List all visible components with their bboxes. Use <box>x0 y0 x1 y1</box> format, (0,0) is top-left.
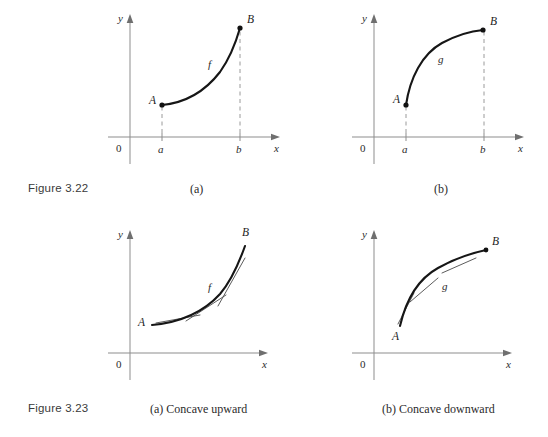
panel-3-22-b: y x 0 a b A B g <box>352 6 527 171</box>
curve-label-g: g <box>442 280 448 292</box>
tick-label-a: a <box>402 143 408 155</box>
point-a-label: A <box>148 94 157 106</box>
panel-3-23-b: y x 0 A B g <box>352 222 527 387</box>
tick-label-b: b <box>236 143 242 155</box>
x-axis-label: x <box>517 142 523 154</box>
point-b-marker <box>237 25 242 30</box>
point-a-label: A <box>392 93 401 105</box>
point-a-label: A <box>391 330 400 342</box>
tick-label-a: a <box>158 143 164 155</box>
curve-label-f: f <box>208 58 213 70</box>
y-axis-label: y <box>117 228 123 240</box>
x-axis-label: x <box>273 142 279 154</box>
x-axis-label: x <box>505 358 511 370</box>
point-b-label: B <box>492 235 499 247</box>
curve-label-f: f <box>208 281 213 293</box>
point-b-marker <box>480 27 485 32</box>
point-a-marker <box>403 102 408 107</box>
y-axis-arrowhead <box>127 14 134 23</box>
point-a-label: A <box>137 316 146 328</box>
x-axis-arrowhead <box>515 134 524 141</box>
point-b-marker <box>484 248 489 253</box>
y-axis-label: y <box>361 12 367 24</box>
panel-3-23-a: y x 0 A B f <box>108 222 283 387</box>
origin-label: 0 <box>116 142 122 154</box>
x-axis-arrowhead <box>271 134 280 141</box>
tangent-line-3 <box>218 258 245 306</box>
x-axis-arrowhead <box>259 350 268 357</box>
figure-3-23-label: Figure 3.23 <box>28 402 88 414</box>
point-b-label: B <box>242 226 249 238</box>
origin-label: 0 <box>360 358 366 370</box>
y-axis-label: y <box>117 12 123 24</box>
tick-label-b: b <box>480 143 486 155</box>
x-axis-label: x <box>261 358 267 370</box>
caption-3-23-b: (b) Concave downward <box>382 402 495 417</box>
caption-3-23-a: (a) Concave upward <box>150 402 247 417</box>
caption-3-22-a: (a) <box>190 182 203 197</box>
y-axis-arrowhead <box>371 14 378 23</box>
origin-label: 0 <box>360 142 366 154</box>
panel-3-22-a: y x 0 a b A B f <box>108 6 283 171</box>
point-b-label: B <box>490 15 497 27</box>
curve-label-g: g <box>438 53 444 65</box>
figure-page: y x 0 a b A B f <box>0 0 548 437</box>
y-axis-arrowhead <box>371 230 378 239</box>
figure-3-22-label: Figure 3.22 <box>28 182 88 194</box>
y-axis-label: y <box>361 228 367 240</box>
point-b-label: B <box>247 13 254 25</box>
y-axis-arrowhead <box>127 230 134 239</box>
point-a-marker <box>159 102 164 107</box>
tangent-line-2 <box>186 295 226 321</box>
x-axis-arrowhead <box>503 350 512 357</box>
curve-f <box>162 28 240 105</box>
tangent-line-3 <box>442 258 476 273</box>
curve-g <box>406 30 483 105</box>
origin-label: 0 <box>116 358 122 370</box>
caption-3-22-b: (b) <box>434 182 448 197</box>
